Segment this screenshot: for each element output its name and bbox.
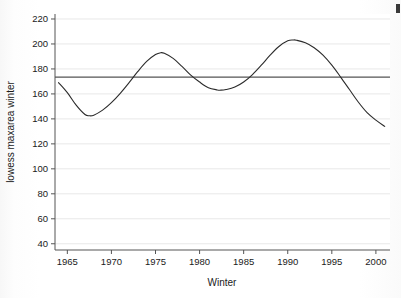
y-tick-label: 140 [32,113,48,124]
x-axis-tick-labels: 19651970197519801985199019952000 [57,256,387,267]
x-tick-label: 2000 [365,256,386,267]
y-tick-label: 40 [37,238,48,249]
chart-screenshot: 406080100120140160180200220 196519701975… [0,0,401,298]
x-tick-label: 1980 [189,256,210,267]
y-tick-label: 160 [32,88,48,99]
y-tick-label: 80 [37,188,48,199]
y-tick-label: 220 [32,13,48,24]
y-axis-ticks [51,19,55,244]
x-tick-label: 1995 [321,256,342,267]
x-axis-title: Winter [208,277,238,288]
y-axis-tick-labels: 406080100120140160180200220 [32,13,48,249]
x-axis-ticks [67,250,376,254]
x-tick-label: 1975 [145,256,166,267]
y-tick-label: 200 [32,38,48,49]
y-tick-label: 60 [37,213,48,224]
x-tick-label: 1970 [101,256,122,267]
x-tick-label: 1965 [57,256,78,267]
y-axis-title: lowess maxarea winter [5,80,16,182]
lowess-line-chart: 406080100120140160180200220 196519701975… [0,0,401,298]
y-tick-label: 100 [32,163,48,174]
y-tick-label: 120 [32,138,48,149]
page-edge-artifact [396,4,400,13]
chart-canvas: 406080100120140160180200220 196519701975… [0,0,401,298]
y-tick-label: 180 [32,63,48,74]
x-tick-label: 1990 [277,256,298,267]
plot-area-background [55,14,390,250]
x-tick-label: 1985 [233,256,254,267]
